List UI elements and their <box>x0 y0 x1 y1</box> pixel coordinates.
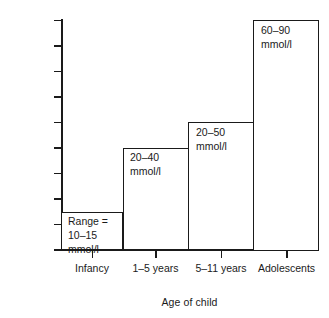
x-axis-title: Age of child <box>61 296 318 308</box>
y-tick-0 <box>54 249 61 251</box>
y-tick-70 <box>54 71 61 73</box>
bar-label-adolescents: 60–90 mmol/l <box>261 23 321 51</box>
x-tick-infancy <box>92 251 94 258</box>
bar-label-1-5-years: 20–40 mmol/l <box>130 150 190 178</box>
y-tick-80 <box>54 45 61 47</box>
y-tick-20 <box>54 198 61 200</box>
x-tick-label-adolescents: Adolescents <box>242 262 329 275</box>
y-tick-30 <box>54 173 61 175</box>
x-tick-5-11-years <box>221 251 223 258</box>
y-tick-10 <box>54 224 61 226</box>
x-tick-adolescents <box>286 251 288 258</box>
bar-label-5-11-years: 20–50 mmol/l <box>196 125 256 153</box>
sweat-sodium-chloride-bar-chart: Sweat sodium and chloride (mmol/l) 90 80… <box>0 0 329 318</box>
y-tick-90 <box>54 20 61 22</box>
y-tick-40 <box>54 147 61 149</box>
y-tick-60 <box>54 96 61 98</box>
y-tick-50 <box>54 122 61 124</box>
bar-adolescents <box>253 20 319 251</box>
x-tick-1-5-years <box>155 251 157 258</box>
bar-label-infancy: Range = 10–15 mmol/l <box>68 214 126 256</box>
